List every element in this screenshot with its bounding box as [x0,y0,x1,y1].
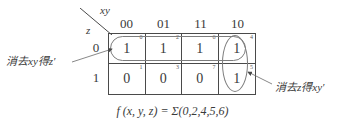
annotation-eliminate-z: 消去z得xy′ [275,78,324,94]
kmap-cell-value: 1 [123,42,130,56]
kmap-cell-3: 3 0 [146,64,183,94]
kmap-cell-index: 2 [176,34,179,40]
kmap-cell-value: 1 [233,42,240,56]
function-formula: f (x, y, z) = Σ(0,2,4,5,6) [0,104,345,119]
kmap-cell-value: 0 [160,72,167,86]
kmap-cell-index: 6 [213,34,216,40]
kmap-cell-value: 0 [196,72,203,86]
axis-label-z: z [86,24,90,36]
kmap-cell-value: 0 [123,72,130,86]
kmap-cell-index: 1 [140,64,143,70]
kmap-cell-index: 3 [176,64,179,70]
annotation-eliminate-xy: 消去xy得z′ [6,52,55,68]
column-header-01: 01 [145,16,182,32]
kmap-cell-6: 6 1 [182,34,219,64]
kmap-cell-4: 4 1 [219,34,256,64]
kmap-cell-7: 7 0 [182,64,219,94]
kmap-cell-5: 5 1 [219,64,256,94]
karnaugh-map-grid: 0 1 2 1 6 1 4 1 1 0 3 0 7 0 5 1 [108,33,256,95]
axis-label-xy: xy [100,4,110,16]
kmap-cell-index: 0 [140,34,143,40]
row-header-z0: 0 [88,40,104,56]
column-header-11: 11 [182,16,219,32]
kmap-cell-1: 1 0 [109,64,146,94]
column-header-00: 00 [108,16,145,32]
kmap-cell-value: 1 [196,42,203,56]
kmap-cell-index: 5 [250,64,253,70]
kmap-cell-0: 0 1 [109,34,146,64]
kmap-cell-2: 2 1 [146,34,183,64]
kmap-cell-value: 1 [160,42,167,56]
kmap-cell-index: 7 [213,64,216,70]
kmap-cell-index: 4 [250,34,253,40]
column-header-10: 10 [219,16,256,32]
kmap-cell-value: 1 [233,72,240,86]
kmap-figure: xy z 00 01 11 10 0 1 0 1 2 1 6 1 4 1 1 0… [0,0,345,130]
row-header-z1: 1 [88,70,104,86]
